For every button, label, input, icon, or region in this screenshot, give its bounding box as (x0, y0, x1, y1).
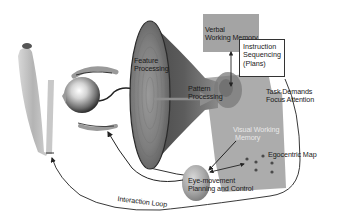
eye-shape (62, 69, 133, 129)
task-label-line2: Focus Attention (266, 96, 314, 104)
pattern-processing-label: Pattern Processing (188, 85, 223, 102)
diagram-svg (0, 0, 337, 224)
visual-working-memory-label: Visual Working Memory (233, 126, 279, 143)
visual-label-line2: Memory (233, 134, 279, 142)
display-screen-shape (18, 43, 54, 156)
feature-processing-label: Feature Processing (134, 57, 169, 74)
task-demands-label: Task Demands Focus Attention (266, 88, 314, 105)
instruction-label-line3: (Plans) (243, 60, 281, 68)
feature-label-line2: Processing (134, 65, 169, 73)
pattern-label-line2: Processing (188, 93, 223, 101)
eye-movement-label-line2: Planning and Control (188, 185, 253, 193)
diagram-canvas: Feature Processing Pattern Processing Ve… (0, 0, 337, 224)
instruction-sequencing-box: Instruction Sequencing (Plans) (239, 39, 285, 77)
eye-movement-label: Eye-movement Planning and Control (188, 177, 253, 194)
egocentric-map-label: Egocentric Map (268, 151, 317, 159)
